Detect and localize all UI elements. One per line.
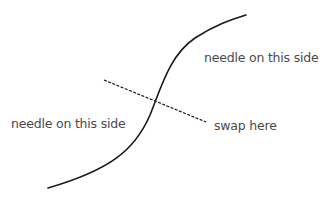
- s-curve: [48, 15, 246, 188]
- label-needle-lower-left: needle on this side: [11, 118, 126, 131]
- label-swap-here: swap here: [214, 120, 277, 133]
- diagram-canvas: [0, 0, 320, 200]
- label-needle-upper-right: needle on this side: [204, 52, 319, 65]
